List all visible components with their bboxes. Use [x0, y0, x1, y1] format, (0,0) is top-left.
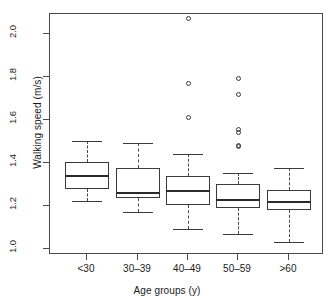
outlier-point	[186, 81, 191, 86]
upper-whisker	[138, 143, 139, 168]
median-line	[65, 175, 109, 177]
upper-whisker-cap	[223, 173, 253, 174]
x-tick-mark	[237, 254, 238, 260]
outlier-point	[236, 130, 241, 135]
median-line	[166, 190, 210, 192]
lower-whisker	[138, 198, 139, 212]
upper-whisker	[289, 168, 290, 190]
x-tick-mark	[187, 254, 188, 260]
outlier-point	[236, 92, 241, 97]
lower-whisker-cap	[173, 229, 203, 230]
upper-whisker-cap	[72, 141, 102, 142]
box-iqr	[216, 184, 260, 208]
outlier-point	[236, 76, 241, 81]
lower-whisker	[188, 205, 189, 230]
lower-whisker	[87, 189, 88, 202]
x-tick-mark	[137, 254, 138, 260]
upper-whisker-cap	[123, 143, 153, 144]
box-iqr	[267, 190, 311, 210]
lower-whisker-cap	[123, 212, 153, 213]
upper-whisker	[87, 141, 88, 161]
x-tick-mark	[288, 254, 289, 260]
lower-whisker-cap	[223, 234, 253, 235]
upper-whisker-cap	[173, 154, 203, 155]
median-line	[216, 199, 260, 201]
upper-whisker-cap	[274, 168, 304, 169]
x-tick-mark	[86, 254, 87, 260]
upper-whisker	[188, 154, 189, 176]
lower-whisker	[238, 208, 239, 234]
upper-whisker	[238, 173, 239, 184]
lower-whisker	[289, 210, 290, 242]
median-line	[267, 201, 311, 203]
lower-whisker-cap	[274, 242, 304, 243]
plot-area	[49, 13, 323, 254]
x-tick-label: >60	[258, 263, 318, 274]
lower-whisker-cap	[72, 201, 102, 202]
x-axis-title: Age groups (y)	[0, 285, 334, 296]
y-tick-label: 2.0	[7, 5, 18, 57]
outlier-point	[186, 115, 191, 120]
y-axis-title: Walking speed (m/s)	[32, 23, 43, 223]
boxplot-figure: Walking speed (m/s) Age groups (y) 1.01.…	[0, 0, 334, 304]
median-line	[116, 192, 160, 194]
outlier-point	[236, 144, 241, 149]
outlier-point	[186, 16, 191, 21]
